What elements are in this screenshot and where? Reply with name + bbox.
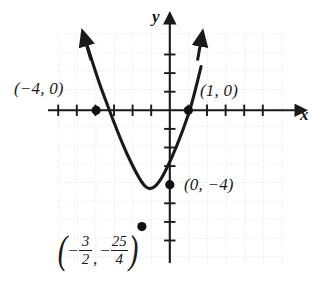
graph-figure: y x (−4, 0) (1, 0) (0, −4) ( − 3 2 , − 2… [0,0,323,291]
label-vertex: ( − 3 2 , − 25 4 ) [56,234,140,267]
vertex-y-fraction: 25 4 [111,234,128,267]
vertex-y-minus-sign: − [100,242,110,259]
y-axis-label: y [152,8,160,25]
label-x-intercept-left: (−4, 0) [14,80,64,97]
vertex-y-value: − 25 4 [100,234,128,267]
label-x-intercept-right: (1, 0) [200,82,238,99]
vertex-comma: , [93,250,97,267]
point-x-intercept-left [92,106,101,115]
vertex-y-denominator: 4 [115,252,125,267]
vertex-x-denominator: 2 [81,252,91,267]
point-y-intercept [165,180,174,189]
x-axis-label: x [300,106,309,123]
vertex-close-paren: ) [129,234,139,267]
label-y-intercept: (0, −4) [184,176,234,193]
vertex-x-numerator: 3 [81,234,91,249]
vertex-x-fraction: 3 2 [79,234,92,267]
coordinate-plane [0,0,323,291]
vertex-open-paren: ( [58,234,68,267]
point-x-intercept-right [184,106,193,115]
point-vertex [137,222,146,231]
grid-dots [58,33,285,265]
vertex-y-numerator: 25 [111,234,128,249]
vertex-x-minus-sign: − [68,242,78,259]
vertex-x-value: − 3 2 [68,234,92,267]
